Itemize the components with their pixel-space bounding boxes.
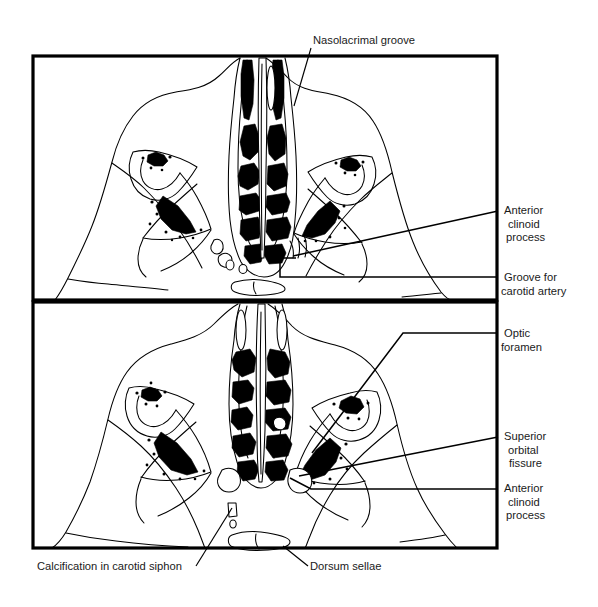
right-optic-foramen-shape — [288, 468, 312, 493]
label-groove-for-carotid-artery: Groove for carotid artery — [501, 271, 567, 297]
left-optic-foramen-shape — [218, 468, 241, 492]
label-dorsum-sellae: Dorsum sellae — [310, 560, 382, 572]
carotid-siphon-calcification-small — [230, 520, 236, 528]
lower-nasal-septum — [256, 304, 265, 482]
label-anterior-clinoid-process-lower: Anterior clinoid process — [504, 482, 546, 521]
label-calcification-in-carotid-siphon: Calcification in carotid siphon — [37, 560, 182, 572]
skull-base-ct-diagram: Nasolacrimal groove Anterior clinoid pro… — [0, 0, 598, 607]
carotid-siphon-calcification-large — [228, 503, 237, 517]
anatomical-figure-root: Nasolacrimal groove Anterior clinoid pro… — [0, 0, 598, 607]
label-nasolacrimal-groove: Nasolacrimal groove — [313, 34, 415, 46]
label-anterior-clinoid-process-upper: Anterior clinoid process — [504, 204, 546, 243]
